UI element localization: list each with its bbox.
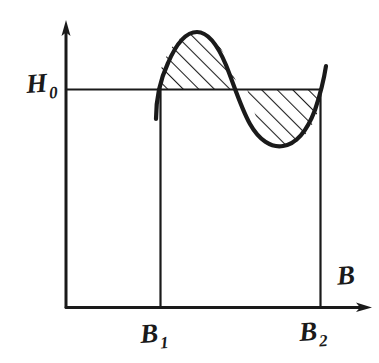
figure-canvas: H0 B B1 B2: [0, 0, 379, 363]
b1-label-subscript: 1: [160, 333, 170, 353]
y-axis-label-h0: H0: [25, 69, 57, 98]
x-axis: [66, 303, 372, 313]
diagram-svg: [0, 0, 379, 363]
y-axis-label-base: H: [25, 68, 49, 99]
y-axis: [62, 20, 71, 307]
y-axis-label-subscript: 0: [49, 83, 59, 103]
b2-label-subscript: 2: [319, 331, 329, 351]
x-tick-label-b1: B1: [139, 319, 168, 348]
x-tick-label-b2: B2: [298, 317, 327, 346]
b2-label-base: B: [298, 316, 319, 347]
x-axis-label-b: B: [336, 261, 356, 289]
b1-label-base: B: [139, 318, 160, 349]
x-axis-label-base: B: [336, 259, 357, 290]
